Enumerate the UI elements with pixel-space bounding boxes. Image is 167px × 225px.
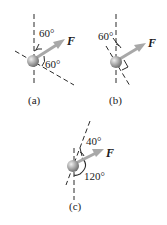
force-label-a: F	[66, 34, 75, 48]
force-label-b: F	[147, 36, 156, 50]
force-arrow-c	[76, 153, 96, 163]
right-angle-marker-b	[122, 60, 128, 70]
particle-b	[110, 56, 122, 68]
force-label-c: F	[105, 146, 114, 160]
angle-label-a2: 60°	[45, 58, 60, 70]
force-arrow-b	[118, 48, 138, 60]
particle-a	[27, 55, 39, 67]
angle-label-b: 60°	[98, 30, 113, 42]
caption-b: (b)	[109, 94, 122, 107]
force-arrow-a	[36, 44, 58, 58]
caption-c: (c)	[69, 200, 82, 213]
angle-label-a1: 60°	[39, 27, 54, 39]
angle-arc-a1	[34, 49, 42, 51]
figure-a: 60° 60° F (a)	[15, 14, 75, 107]
angle-label-c1: 40°	[86, 135, 101, 147]
particle-c	[67, 160, 79, 172]
angle-label-c2: 120°	[84, 170, 105, 182]
figure-c: 40° 120° F (c)	[66, 121, 114, 213]
figure-b: 60° F (b)	[98, 14, 156, 107]
force-diagrams: 60° 60° F (a) 60° F (b)	[0, 0, 167, 225]
caption-a: (a)	[28, 94, 41, 107]
